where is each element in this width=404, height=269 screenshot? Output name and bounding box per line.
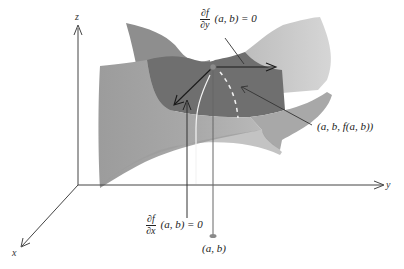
partial-y-annotation: ∂f ∂y (a, b) = 0 — [200, 8, 257, 30]
critical-point — [210, 64, 216, 70]
partial-y-fraction: ∂f ∂y — [200, 8, 210, 30]
y-axis-label: y — [386, 180, 390, 190]
x-axis — [22, 185, 78, 246]
base-point — [210, 234, 217, 238]
partial-y-numerator: ∂f — [200, 8, 210, 20]
saddle-diagram: z y x ∂f ∂y (a, b) = 0 ∂f ∂x (a, b) = 0 … — [0, 0, 404, 269]
partial-x-fraction: ∂f ∂x — [146, 214, 156, 236]
partial-x-rest: (a, b) = 0 — [160, 218, 202, 230]
partial-x-annotation: ∂f ∂x (a, b) = 0 — [146, 214, 203, 236]
z-axis-label: z — [75, 12, 79, 22]
partial-x-denominator: ∂x — [146, 226, 156, 237]
partial-y-rest: (a, b) = 0 — [214, 12, 256, 24]
partial-x-numerator: ∂f — [146, 214, 156, 226]
point-3d-label: (a, b, f(a, b)) — [317, 121, 373, 132]
x-axis-label: x — [12, 248, 16, 258]
point-2d-label: (a, b) — [202, 243, 226, 254]
partial-y-denominator: ∂y — [200, 20, 210, 31]
